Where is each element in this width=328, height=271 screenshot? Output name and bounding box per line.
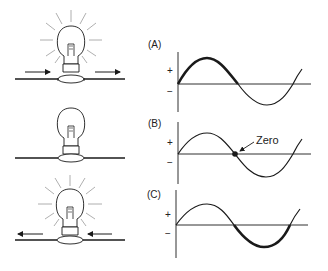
panel-b-plus-sign: + — [167, 138, 173, 148]
bulb-b-icon — [57, 108, 84, 162]
zero-pointer-arrow-icon — [240, 142, 254, 151]
zero-point-marker — [232, 151, 238, 157]
panel-c-plus-sign: + — [165, 210, 171, 220]
graph-c — [176, 190, 308, 258]
graph-b — [178, 122, 311, 184]
panel-a-minus-sign: − — [167, 87, 173, 97]
panel-c-minus-sign: − — [165, 229, 171, 239]
panel-b-label: (B) — [148, 119, 161, 129]
graph-a — [178, 52, 311, 112]
ac-diagram — [0, 0, 328, 271]
panel-c-label: (C) — [147, 190, 161, 200]
panel-b-minus-sign: − — [167, 158, 173, 168]
zero-annotation: Zero — [256, 135, 279, 146]
panel-a-plus-sign: + — [167, 66, 173, 76]
panel-a-label: (A) — [148, 40, 161, 50]
